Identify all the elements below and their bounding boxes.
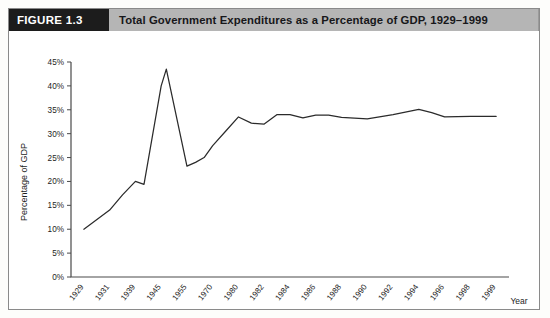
x-tick-label: 1970 [196, 282, 214, 302]
figure-container: FIGURE 1.3 Total Government Expenditures… [0, 0, 550, 318]
y-tick-label: 30% [48, 130, 64, 139]
y-tick-label: 25% [48, 154, 64, 163]
x-tick-label: 1980 [222, 282, 240, 302]
y-axis-title: Percentage of GDP [19, 143, 29, 221]
data-series-line [84, 69, 496, 229]
x-tick-label: 1999 [480, 282, 498, 302]
y-axis-ticks: 0%5%10%15%20%25%30%35%40%45% [48, 58, 71, 282]
y-tick-label: 45% [48, 58, 64, 67]
y-tick-label: 20% [48, 177, 64, 186]
x-tick-label: 1996 [428, 282, 446, 302]
x-tick-label: 1931 [93, 282, 111, 302]
y-tick-label: 40% [48, 82, 64, 91]
y-tick-label: 35% [48, 106, 64, 115]
chart-plot-area: 0%5%10%15%20%25%30%35%40%45% 19291931193… [9, 32, 539, 309]
y-tick-label: 0% [52, 273, 64, 282]
x-tick-label: 1929 [67, 282, 85, 302]
x-axis-title: Year [510, 296, 527, 306]
x-tick-label: 1998 [454, 282, 472, 302]
figure-number-badge: FIGURE 1.3 [9, 9, 109, 31]
y-tick-label: 10% [48, 225, 64, 234]
figure-header: FIGURE 1.3 Total Government Expenditures… [9, 9, 539, 31]
x-tick-label: 1945 [145, 282, 163, 302]
y-tick-label: 5% [52, 249, 64, 258]
x-tick-label: 1939 [119, 282, 137, 302]
x-axis-ticks: 1929193119391945195519701980198219841986… [67, 282, 498, 302]
chart-axes [71, 62, 509, 277]
figure-title: Total Government Expenditures as a Perce… [109, 9, 539, 31]
x-tick-label: 1986 [299, 282, 317, 302]
x-tick-label: 1992 [377, 282, 395, 302]
y-tick-label: 15% [48, 201, 64, 210]
x-tick-label: 1955 [170, 282, 188, 302]
line-chart-svg: 0%5%10%15%20%25%30%35%40%45% 19291931193… [9, 32, 539, 309]
x-tick-label: 1990 [351, 282, 369, 302]
x-tick-label: 1988 [325, 282, 343, 302]
x-tick-label: 1984 [274, 282, 292, 302]
x-tick-label: 1994 [402, 282, 420, 302]
x-tick-label: 1982 [248, 282, 266, 302]
